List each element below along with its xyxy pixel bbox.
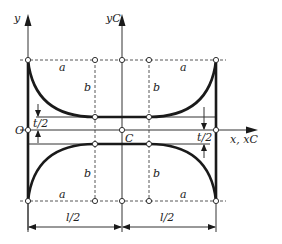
node bbox=[146, 141, 151, 146]
arrow-down-icon bbox=[201, 123, 207, 130]
centroid-node bbox=[119, 127, 124, 132]
y-axis-label: y bbox=[13, 12, 21, 25]
arrow-up-icon bbox=[201, 144, 207, 151]
yc-axis-label: yC bbox=[105, 12, 121, 25]
y-axis-arrow-icon bbox=[25, 14, 32, 26]
dim-a-top-right: a bbox=[180, 61, 187, 74]
dim-b-lower-right: b bbox=[153, 167, 160, 180]
node bbox=[213, 127, 218, 132]
node bbox=[25, 57, 30, 62]
arrow-up-icon bbox=[35, 130, 41, 137]
node bbox=[213, 198, 218, 203]
node bbox=[92, 141, 97, 146]
node bbox=[25, 198, 30, 203]
centroid-label: C bbox=[125, 132, 134, 145]
node bbox=[92, 114, 97, 119]
origin-label: O bbox=[15, 124, 24, 137]
node bbox=[213, 57, 218, 62]
node bbox=[92, 198, 97, 203]
arrow-right-icon bbox=[114, 224, 122, 230]
dim-t-half-left: t/2 bbox=[33, 117, 48, 130]
x-axis-label: x, xC bbox=[230, 133, 258, 146]
arrow-right-icon bbox=[208, 224, 216, 230]
arrow-down-icon bbox=[35, 110, 41, 117]
node bbox=[119, 198, 124, 203]
dim-b-upper-left: b bbox=[84, 81, 91, 94]
dim-a-bottom-right: a bbox=[180, 188, 187, 201]
node bbox=[146, 57, 151, 62]
arrow-left-icon bbox=[122, 224, 130, 230]
dim-l-half-left: l/2 bbox=[66, 211, 80, 224]
dim-a-top-left: a bbox=[59, 61, 66, 74]
diagram-canvas: y yC x, xC O C a a a a b b b b t/2 t/2 l… bbox=[0, 0, 282, 244]
node bbox=[146, 198, 151, 203]
node bbox=[92, 57, 97, 62]
arrow-left-icon bbox=[28, 224, 36, 230]
dim-b-lower-left: b bbox=[84, 167, 91, 180]
dim-b-upper-right: b bbox=[153, 81, 160, 94]
node bbox=[119, 57, 124, 62]
node bbox=[146, 114, 151, 119]
dim-t-half-right: t/2 bbox=[197, 131, 212, 144]
origin-node bbox=[25, 127, 30, 132]
dim-l-half-right: l/2 bbox=[160, 211, 174, 224]
dim-a-bottom-left: a bbox=[59, 188, 66, 201]
